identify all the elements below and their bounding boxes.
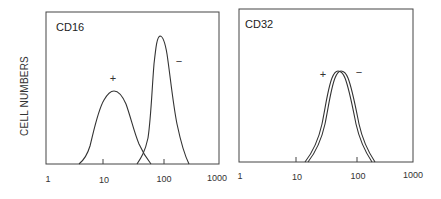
x-tick-label: 100	[350, 171, 365, 181]
figure: CELL NUMBERS CD16 1 10 100 1000 + − CD32…	[0, 0, 441, 199]
x-tick-label: 10	[292, 172, 302, 182]
histogram-negative	[308, 71, 375, 162]
x-tick-label: 1	[237, 171, 242, 181]
histogram-positive	[79, 91, 151, 164]
positive-marker: +	[320, 68, 326, 80]
x-tick-label: 1000	[403, 170, 423, 180]
plot-frame	[46, 12, 219, 164]
x-tick-label: 100	[156, 174, 171, 184]
x-tick-label: 10	[99, 175, 109, 185]
panel-cd32: CD32 1 10 100 1000 + −	[237, 9, 423, 182]
x-tick-label: 1	[45, 174, 50, 184]
negative-marker: −	[176, 55, 182, 67]
panel-title: CD32	[245, 18, 273, 30]
panel-title: CD16	[56, 21, 84, 33]
y-axis-label: CELL NUMBERS	[19, 56, 30, 136]
positive-marker: +	[110, 72, 116, 84]
plot-frame	[239, 9, 413, 162]
histogram-positive	[305, 71, 372, 162]
negative-marker: −	[356, 66, 362, 78]
panel-cd16: CD16 1 10 100 1000 + −	[45, 12, 227, 185]
x-tick-label: 1000	[207, 173, 227, 183]
